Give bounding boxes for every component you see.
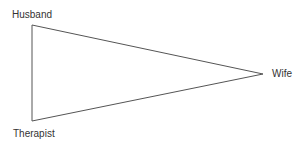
- triangle-diagram: [0, 0, 306, 148]
- wife-label: Wife: [272, 68, 292, 80]
- husband-label: Husband: [12, 9, 52, 21]
- therapist-label: Therapist: [13, 128, 55, 140]
- triangle-shape: [32, 25, 263, 121]
